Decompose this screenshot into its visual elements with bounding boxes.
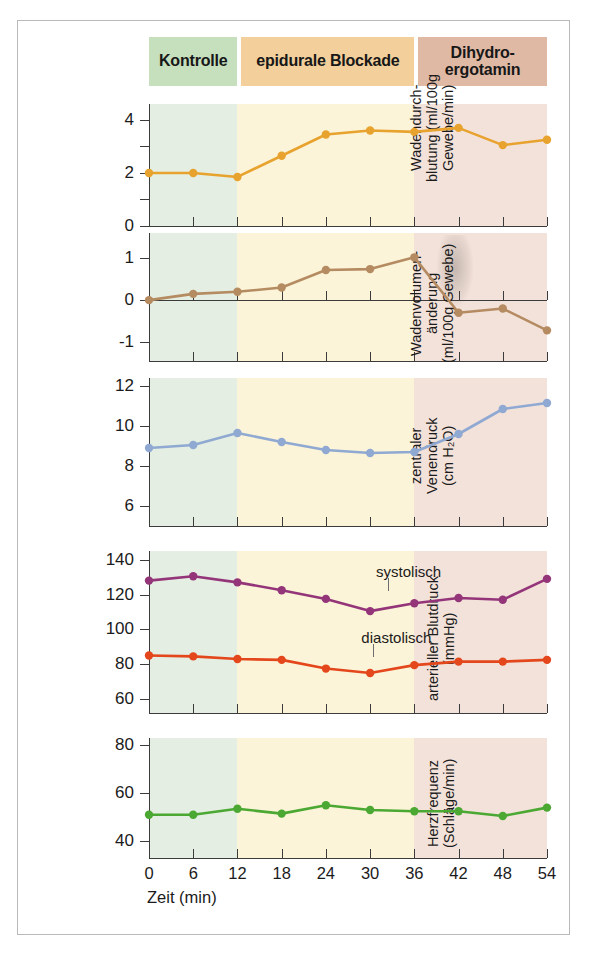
data-point bbox=[499, 812, 507, 820]
data-point bbox=[366, 806, 374, 814]
series-line-Herzfrequenz bbox=[149, 805, 547, 816]
data-point bbox=[543, 803, 551, 811]
x-axis-tick-label: 6 bbox=[189, 864, 198, 883]
data-point bbox=[410, 807, 418, 815]
data-point bbox=[322, 801, 330, 809]
x-axis-tick-label: 18 bbox=[272, 864, 290, 883]
x-axis-tick-label: 54 bbox=[538, 864, 556, 883]
x-axis-tick-label: 0 bbox=[144, 864, 153, 883]
figure-frame: Kontrolleepidurale BlockadeDihydro- ergo… bbox=[17, 20, 570, 935]
x-axis-tick-label: 36 bbox=[405, 864, 423, 883]
x-axis-tick-label: 12 bbox=[228, 864, 246, 883]
x-axis-tick-label: 24 bbox=[317, 864, 335, 883]
data-point bbox=[277, 809, 285, 817]
x-axis-title: Zeit (min) bbox=[147, 888, 217, 907]
data-point bbox=[189, 811, 197, 819]
data-point bbox=[454, 807, 462, 815]
data-point bbox=[233, 805, 241, 813]
x-axis-tick-labels: 061218243036424854 bbox=[18, 864, 571, 894]
data-point bbox=[145, 811, 153, 819]
x-axis-tick-label: 42 bbox=[449, 864, 467, 883]
series-layer-panel-5 bbox=[18, 21, 571, 936]
x-axis-tick-label: 48 bbox=[494, 864, 512, 883]
x-axis-tick-label: 30 bbox=[361, 864, 379, 883]
